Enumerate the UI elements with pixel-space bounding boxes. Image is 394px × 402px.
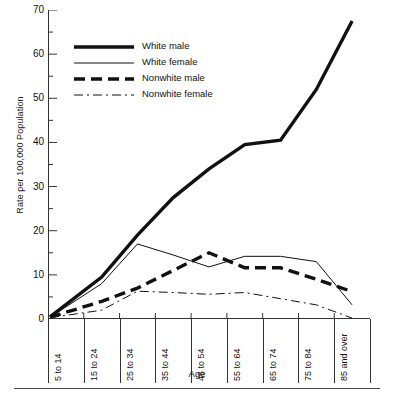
legend-sample-svg — [73, 73, 135, 85]
y-tick-label: 10 — [33, 270, 44, 280]
x-tick-marks — [84, 313, 334, 319]
legend-label: White female — [135, 56, 197, 67]
legend-sample-svg — [73, 89, 135, 101]
x-axis-title: Age — [0, 368, 394, 379]
series-line-3 — [50, 291, 352, 318]
legend: White maleWhite femaleNonwhite maleNonwh… — [73, 37, 253, 101]
legend-item[interactable]: White female — [73, 53, 253, 69]
legend-item[interactable]: Nonwhite female — [73, 85, 253, 101]
legend-line-sample — [73, 71, 135, 83]
y-tick-label: 60 — [33, 49, 44, 59]
figure: Rate per 100,000 Population 706050403020… — [0, 0, 394, 402]
legend-label: Nonwhite male — [135, 72, 205, 83]
y-axis-tick-labels: 706050403020100 — [18, 0, 44, 330]
legend-item[interactable]: Nonwhite male — [73, 69, 253, 85]
series-line-2 — [50, 253, 352, 317]
legend-label: Nonwhite female — [135, 88, 213, 99]
legend-item[interactable]: White male — [73, 37, 253, 53]
footer-rule — [14, 388, 380, 389]
legend-sample-svg — [73, 41, 135, 53]
y-tick-label: 20 — [33, 226, 44, 236]
legend-sample-svg — [73, 57, 135, 69]
legend-line-sample — [73, 87, 135, 99]
legend-line-sample — [73, 39, 135, 51]
y-tick-marks — [49, 10, 57, 297]
legend-label: White male — [135, 40, 190, 51]
legend-line-sample — [73, 55, 135, 67]
y-tick-label: 30 — [33, 182, 44, 192]
y-tick-label: 0 — [38, 314, 44, 324]
y-tick-label: 70 — [33, 5, 44, 15]
y-tick-label: 50 — [33, 93, 44, 103]
y-tick-label: 40 — [33, 137, 44, 147]
